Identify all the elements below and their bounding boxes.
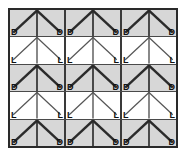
cell-group: LL: [64, 92, 120, 118]
apex-node-dot: [148, 92, 150, 93]
cell-group: LL: [120, 37, 176, 63]
cell-group: LL: [10, 92, 64, 118]
branch-lines: [10, 37, 64, 63]
cell-group: DD: [10, 10, 64, 36]
cell-label-right: D: [113, 138, 120, 147]
apex-node-dot: [36, 10, 39, 11]
apex-node-dot: [36, 38, 38, 39]
cell-label-left: D: [123, 138, 130, 147]
cell-label-left: D: [11, 138, 18, 147]
branch-lines: [122, 37, 176, 63]
grid-row: DDDDDD: [10, 119, 176, 146]
cell-group: LL: [120, 92, 176, 118]
apex-node-dot: [36, 65, 39, 66]
branch-lines: [122, 92, 176, 118]
cell-group: DD: [120, 10, 176, 36]
grid-row: DDDDDD: [10, 64, 176, 91]
apex-node-dot: [92, 120, 95, 121]
cell-label-right: D: [169, 138, 176, 147]
apex-node-dot: [92, 65, 95, 66]
cell-group: DD: [64, 120, 120, 146]
branch-lines: [66, 92, 120, 118]
cell-group: DD: [120, 65, 176, 91]
apex-node-dot: [92, 10, 95, 11]
cell-label-left: D: [67, 138, 74, 147]
apex-node-dot: [36, 120, 39, 121]
apex-node-dot: [92, 92, 94, 93]
cell-group: DD: [64, 65, 120, 91]
pattern-figure: DDDDDDLLLLLLDDDDDDLLLLLLDDDDDD: [8, 8, 178, 148]
branch-lines: [10, 92, 64, 118]
cell-group: DD: [10, 65, 64, 91]
branch-lines: [66, 37, 120, 63]
cell-label-right: D: [57, 138, 64, 147]
apex-node-dot: [148, 10, 151, 11]
apex-node-dot: [148, 38, 150, 39]
cell-group: DD: [10, 120, 64, 146]
apex-node-dot: [92, 38, 94, 39]
apex-node-dot: [148, 120, 151, 121]
apex-node-dot: [148, 65, 151, 66]
cell-group: LL: [10, 37, 64, 63]
grid-row: LLLLLL: [10, 36, 176, 63]
cell-group: DD: [120, 120, 176, 146]
cell-group: LL: [64, 37, 120, 63]
grid-row: LLLLLL: [10, 91, 176, 118]
cell-group: DD: [64, 10, 120, 36]
apex-node-dot: [36, 92, 38, 93]
grid-row: DDDDDD: [10, 10, 176, 36]
